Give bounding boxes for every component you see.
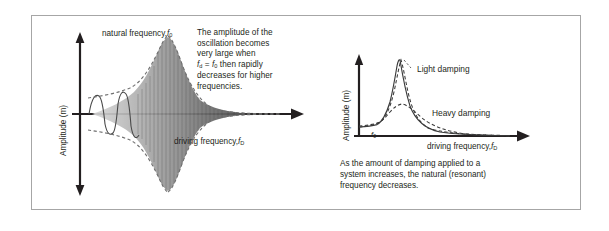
annotation-equation-line: fd = f0 then rapidly	[197, 60, 309, 72]
left-x-axis-text: driving frequency,	[174, 137, 238, 146]
annotation-line-1: The amplitude of the	[197, 28, 309, 39]
tick-subscript: 0	[373, 133, 376, 139]
left-x-axis-label: driving frequency,fD	[174, 137, 244, 146]
right-y-axis-label: Amplitude (m)	[342, 90, 351, 141]
equation-operator: =	[205, 60, 210, 69]
caption-line-3: frequency decreases.	[340, 181, 570, 192]
damping-comparison-panel: Amplitude (m) driving frequency,fD f0 Li…	[314, 16, 582, 209]
caption-line-2: system increases, the natural (resonant)	[340, 170, 570, 181]
light-damping-leader	[404, 60, 411, 68]
annotation-line-3: very large when	[197, 49, 309, 60]
left-x-axis-subscript: D	[240, 140, 244, 146]
annotation-line-4: then rapidly	[220, 60, 263, 69]
annotation-line-6: frequencies.	[197, 82, 309, 93]
resonance-annotation-text: The amplitude of the oscillation becomes…	[197, 28, 309, 93]
annotation-line-5: decreases for higher	[197, 71, 309, 82]
heavy-damping-label: Heavy damping	[432, 108, 490, 118]
equation-rhs-subscript: 0	[214, 63, 217, 69]
right-x-axis-label: driving frequency,fD	[427, 142, 497, 151]
right-y-axis	[355, 54, 363, 136]
caption-line-1: As the amount of damping applied to a	[340, 159, 570, 170]
left-y-axis-label: Amplitude (m)	[59, 105, 68, 156]
right-x-axis-subscript: D	[493, 145, 497, 151]
damping-caption: As the amount of damping applied to a sy…	[340, 159, 570, 191]
annotation-line-2: oscillation becomes	[197, 39, 309, 50]
natural-frequency-subscript: 0	[169, 32, 172, 38]
equation-lhs-subscript: d	[199, 63, 202, 69]
natural-frequency-tick: f0	[371, 130, 376, 139]
natural-frequency-annotation: natural frequency,f0	[102, 29, 172, 38]
light-damping-label: Light damping	[417, 64, 470, 74]
natural-frequency-label: natural frequency,	[102, 29, 167, 38]
right-x-axis-text: driving frequency,	[427, 142, 491, 151]
figure-frame: natural frequency,f0 Amplitude (m) drivi…	[31, 15, 581, 210]
resonance-oscillation-panel: natural frequency,f0 Amplitude (m) drivi…	[32, 16, 314, 209]
